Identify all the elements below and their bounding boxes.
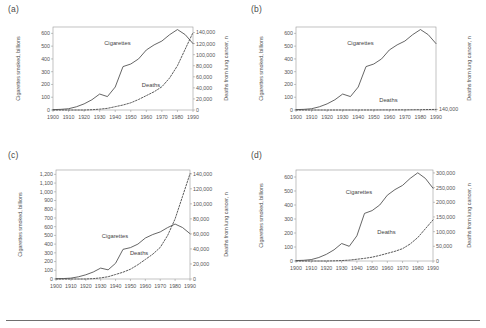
svg-text:1910: 1910: [63, 114, 75, 120]
svg-text:1,200: 1,200: [40, 171, 53, 177]
svg-text:60,000: 60,000: [196, 74, 212, 80]
svg-text:1910: 1910: [65, 283, 77, 289]
svg-text:200: 200: [284, 81, 293, 87]
svg-text:140,000: 140,000: [193, 171, 212, 177]
svg-text:Deaths from lung cancer, n: Deaths from lung cancer, n: [223, 36, 229, 100]
svg-text:Cigarettes smoked, billions: Cigarettes smoked, billions: [15, 36, 21, 101]
svg-text:0: 0: [47, 107, 50, 113]
svg-text:400: 400: [41, 56, 50, 62]
svg-text:Cigarettes smoked, billions: Cigarettes smoked, billions: [17, 192, 23, 257]
svg-text:1940: 1940: [351, 265, 363, 271]
svg-text:400: 400: [284, 56, 293, 62]
svg-text:0: 0: [50, 276, 53, 282]
svg-text:Deaths: Deaths: [379, 97, 397, 103]
svg-text:1980: 1980: [415, 114, 427, 120]
svg-text:Cigarettes smoked, billions: Cigarettes smoked, billions: [258, 183, 264, 248]
svg-text:Cigarettes: Cigarettes: [102, 233, 129, 239]
svg-text:140,000: 140,000: [196, 29, 215, 35]
svg-text:1950: 1950: [368, 114, 380, 120]
svg-text:400: 400: [44, 241, 53, 247]
svg-text:1980: 1980: [412, 265, 424, 271]
svg-text:1950: 1950: [125, 283, 137, 289]
svg-text:1910: 1910: [306, 114, 318, 120]
svg-text:1960: 1960: [139, 283, 151, 289]
svg-text:1960: 1960: [383, 114, 395, 120]
svg-text:500: 500: [44, 232, 53, 238]
panel-c: (c) 1,2001,1001,000900800700600500400300…: [0, 146, 243, 298]
svg-text:200: 200: [41, 81, 50, 87]
svg-text:0: 0: [196, 107, 199, 113]
svg-text:1930: 1930: [95, 283, 107, 289]
svg-text:200: 200: [284, 230, 293, 236]
svg-text:1990: 1990: [427, 265, 439, 271]
svg-text:1900: 1900: [50, 283, 62, 289]
svg-text:Deaths: Deaths: [142, 82, 160, 88]
svg-text:1930: 1930: [336, 265, 348, 271]
svg-text:600: 600: [284, 174, 293, 180]
svg-text:1980: 1980: [172, 114, 184, 120]
svg-text:Cigarettes: Cigarettes: [347, 40, 374, 46]
svg-text:Deaths: Deaths: [130, 250, 148, 256]
svg-text:1920: 1920: [321, 265, 333, 271]
svg-text:1980: 1980: [169, 283, 181, 289]
svg-text:1900: 1900: [290, 265, 302, 271]
svg-text:Cigarettes smoked, billions: Cigarettes smoked, billions: [258, 36, 264, 101]
svg-text:100,000: 100,000: [196, 52, 215, 58]
svg-text:80,000: 80,000: [196, 63, 212, 69]
svg-text:1970: 1970: [399, 114, 411, 120]
svg-text:Deaths from lung cancer, n: Deaths from lung cancer, n: [466, 36, 472, 100]
svg-text:300: 300: [284, 216, 293, 222]
svg-text:300: 300: [284, 69, 293, 75]
svg-text:1990: 1990: [430, 114, 442, 120]
svg-text:100,000: 100,000: [436, 229, 455, 235]
svg-text:1960: 1960: [140, 114, 152, 120]
svg-text:100: 100: [44, 267, 53, 273]
svg-text:1930: 1930: [94, 114, 106, 120]
svg-text:100: 100: [41, 94, 50, 100]
svg-text:200,000: 200,000: [436, 199, 455, 205]
svg-text:1920: 1920: [321, 114, 333, 120]
svg-text:0: 0: [290, 107, 293, 113]
panel-a: (a) 6005004003002001000140,000120,000100…: [0, 0, 243, 152]
svg-text:Deaths from lung cancer, n: Deaths from lung cancer, n: [466, 183, 472, 247]
svg-text:500: 500: [41, 43, 50, 49]
svg-text:500: 500: [284, 188, 293, 194]
svg-text:600: 600: [44, 224, 53, 230]
svg-text:0: 0: [290, 258, 293, 264]
svg-text:1990: 1990: [187, 114, 199, 120]
footer-rule: [6, 320, 480, 321]
panel-a-plot: 6005004003002001000140,000120,000100,000…: [0, 0, 243, 152]
svg-text:300: 300: [44, 250, 53, 256]
svg-text:50,000: 50,000: [436, 243, 452, 249]
svg-text:300,000: 300,000: [436, 170, 455, 176]
svg-text:Cigarettes: Cigarettes: [104, 40, 131, 46]
svg-text:600: 600: [41, 30, 50, 36]
svg-text:1910: 1910: [305, 265, 317, 271]
panel-c-plot: 1,2001,1001,0009008007006005004003002001…: [0, 146, 243, 298]
panel-b: (b) 6005004003002001000140,0001900191019…: [243, 0, 486, 152]
panel-b-plot: 6005004003002001000140,00019001910192019…: [243, 0, 486, 152]
svg-text:100: 100: [284, 94, 293, 100]
svg-text:Cigarettes: Cigarettes: [346, 189, 373, 195]
panel-d-plot: 6005004003002001000300,000250,000200,000…: [243, 146, 486, 298]
svg-text:1,000: 1,000: [40, 189, 53, 195]
svg-text:1930: 1930: [337, 114, 349, 120]
svg-text:1970: 1970: [154, 283, 166, 289]
svg-text:1900: 1900: [47, 114, 59, 120]
svg-text:20,000: 20,000: [196, 96, 212, 102]
svg-text:1920: 1920: [78, 114, 90, 120]
svg-text:500: 500: [284, 43, 293, 49]
svg-text:1950: 1950: [125, 114, 137, 120]
svg-text:1970: 1970: [156, 114, 168, 120]
figure-four-panel-cigarettes-lung-cancer: (a) 6005004003002001000140,000120,000100…: [0, 0, 486, 328]
svg-text:1,100: 1,100: [40, 180, 53, 186]
svg-text:Deaths: Deaths: [377, 229, 395, 235]
svg-text:100,000: 100,000: [193, 201, 212, 207]
svg-text:1940: 1940: [110, 283, 122, 289]
svg-text:20,000: 20,000: [193, 261, 209, 267]
svg-text:100: 100: [284, 244, 293, 250]
svg-text:400: 400: [284, 202, 293, 208]
svg-text:120,000: 120,000: [193, 186, 212, 192]
panel-d: (d) 6005004003002001000300,000250,000200…: [243, 146, 486, 298]
svg-text:0: 0: [193, 276, 196, 282]
